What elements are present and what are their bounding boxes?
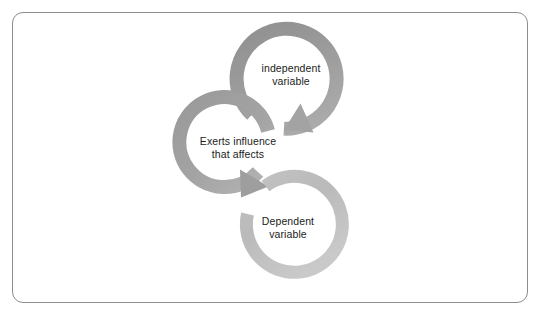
- label-exerts-influence: Exerts influence that affects: [186, 135, 290, 160]
- diagram-figure: independent variable Exerts influence th…: [0, 0, 541, 316]
- label-independent-variable: independent variable: [243, 62, 339, 87]
- label-dependent-variable: Dependent variable: [240, 215, 336, 240]
